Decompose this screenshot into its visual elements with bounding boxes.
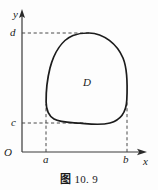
y-tick-label-c: c bbox=[11, 116, 16, 128]
y-axis bbox=[19, 9, 25, 152]
y-axis-label: y bbox=[13, 8, 18, 20]
x-axis-label: x bbox=[143, 155, 148, 167]
origin-label: O bbox=[4, 146, 12, 158]
caption-number: 10. 9 bbox=[74, 173, 98, 185]
x-tick-label-b: b bbox=[123, 153, 129, 165]
figure-caption: 图 10. 9 bbox=[0, 170, 158, 186]
y-tick-label-d: d bbox=[10, 26, 16, 38]
coordinate-plot bbox=[0, 0, 158, 190]
region-label-D: D bbox=[83, 76, 91, 88]
x-tick-label-a: a bbox=[43, 153, 49, 165]
caption-prefix: 图 bbox=[60, 173, 71, 185]
figure-container: y x O d c a b D 图 10. 9 bbox=[0, 0, 158, 190]
